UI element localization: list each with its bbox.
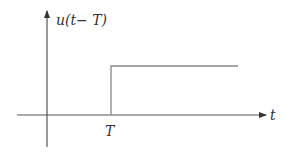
y-axis-label: u(t− T): [56, 12, 107, 28]
step-signal: [111, 66, 238, 115]
step-function-diagram: u(t− T) t T: [0, 0, 290, 157]
step-time-label: T: [105, 123, 116, 139]
x-axis-label: t: [270, 107, 276, 123]
